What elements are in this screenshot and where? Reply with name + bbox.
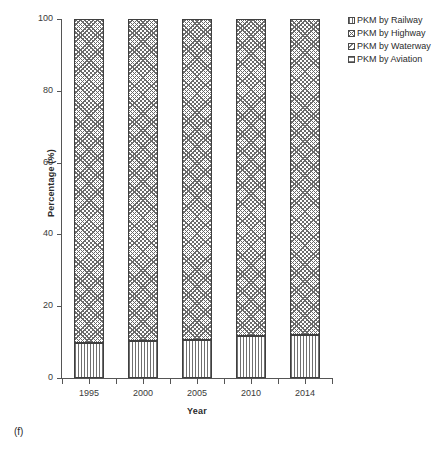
bar-segment [290, 19, 320, 335]
legend-swatch-icon [348, 56, 355, 63]
x-axis-tick-label: 2010 [226, 387, 276, 399]
bar-segment [74, 343, 104, 378]
figure-panel: 020406080100 19952000200520102014 Percen… [0, 0, 444, 456]
y-axis-tick-label: 100 [38, 12, 53, 25]
legend-item: PKM by Highway [348, 27, 442, 39]
x-axis-tick-label: 2005 [172, 387, 222, 399]
y-axis-tick-label: 20 [43, 299, 53, 312]
x-axis-tick-mark [89, 379, 90, 384]
x-axis-tick-mark [116, 379, 117, 384]
bar-segment [236, 19, 266, 336]
chart-legend: PKM by RailwayPKM by HighwayPKM by Water… [348, 14, 442, 66]
x-axis-tick-mark [305, 379, 306, 384]
plot-area [62, 19, 332, 378]
x-axis-tick-mark [251, 379, 252, 384]
y-axis-tick-label: 0 [48, 371, 53, 384]
legend-item-label: PKM by Aviation [357, 54, 422, 65]
x-axis-tick-label: 2014 [280, 387, 330, 399]
bar-group [236, 19, 266, 378]
x-axis-title: Year [61, 406, 333, 416]
legend-item: PKM by Waterway [348, 40, 442, 52]
y-axis-tick-label: 80 [43, 84, 53, 97]
x-axis-tick-mark [143, 379, 144, 384]
y-axis-tick: 100 [0, 19, 62, 20]
x-axis-tick-mark [278, 379, 279, 384]
y-axis-tick: 20 [0, 306, 62, 307]
bar-segment [182, 19, 212, 340]
legend-item-label: PKM by Waterway [357, 41, 431, 52]
legend-swatch-icon [348, 43, 355, 50]
bar-segment [128, 341, 158, 378]
legend-item-label: PKM by Highway [357, 28, 426, 39]
x-axis-tick-mark [170, 379, 171, 384]
x-axis-tick-label: 2000 [118, 387, 168, 399]
x-axis-tick-mark [224, 379, 225, 384]
bar-group [74, 19, 104, 378]
bar-group [128, 19, 158, 378]
bar-group [290, 19, 320, 378]
y-axis-tick: 0 [0, 378, 62, 379]
legend-item-label: PKM by Railway [357, 15, 423, 26]
bar-segment [74, 19, 104, 343]
legend-swatch-icon [348, 30, 355, 37]
legend-item: PKM by Railway [348, 14, 442, 26]
x-axis-tick-mark [332, 379, 333, 384]
y-axis-title: Percentage (%) [46, 123, 56, 243]
x-axis-tick-mark [62, 379, 63, 384]
y-axis-tick: 80 [0, 91, 62, 92]
x-axis-tick-label: 1995 [64, 387, 114, 399]
bar-segment [290, 335, 320, 378]
legend-item: PKM by Aviation [348, 53, 442, 65]
x-axis-tick-mark [197, 379, 198, 384]
bar-segment [128, 19, 158, 341]
legend-swatch-icon [348, 17, 355, 24]
panel-caption: (f) [14, 426, 23, 437]
bar-group [182, 19, 212, 378]
bar-segment [236, 336, 266, 378]
bar-segment [182, 340, 212, 378]
